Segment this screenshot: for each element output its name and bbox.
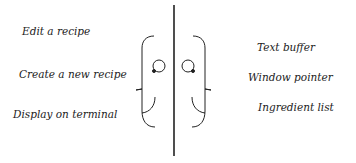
left-face	[136, 36, 165, 127]
left-face-outline	[136, 36, 155, 127]
label-window-pointer: Window pointer	[248, 71, 333, 83]
right-mouth	[192, 97, 205, 113]
label-text-buffer: Text buffer	[257, 41, 315, 53]
label-ingredient-list: Ingredient list	[258, 101, 334, 113]
left-mouth	[142, 97, 155, 113]
label-display-terminal: Display on terminal	[13, 108, 117, 120]
right-face-outline	[192, 36, 211, 127]
label-create-recipe: Create a new recipe	[19, 68, 127, 80]
label-edit-recipe: Edit a recipe	[22, 25, 90, 37]
right-pupil-icon	[192, 70, 195, 73]
left-pupil-icon	[153, 70, 156, 73]
right-face	[182, 36, 211, 127]
